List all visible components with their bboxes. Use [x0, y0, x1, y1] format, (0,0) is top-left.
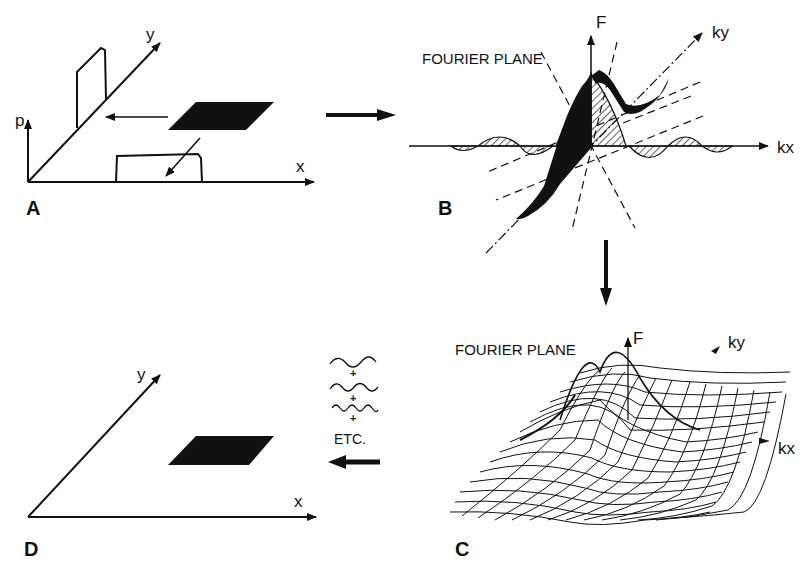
- x-axis-label-d: x: [294, 492, 303, 511]
- y-axis-label: y: [146, 25, 155, 44]
- plus-sign-2: +: [350, 392, 356, 404]
- panel-d: y x D: [24, 365, 316, 560]
- arrow-c-to-d: [328, 455, 380, 469]
- panel-label-a: A: [26, 197, 40, 219]
- kx-axis-label-c: kx: [778, 439, 796, 458]
- y-axis-d: [28, 375, 160, 517]
- panel-c: FOURIER PLANE F ky kx C: [450, 329, 796, 560]
- panel-label-c: C: [455, 538, 469, 560]
- ky-arrowhead-c: [711, 346, 720, 354]
- y-axis: [28, 43, 160, 182]
- wave-3-icon: [332, 405, 378, 412]
- reconstructed-object: [168, 436, 274, 465]
- wave-2-icon: [330, 384, 378, 392]
- fourier-plane-label-c: FOURIER PLANE: [455, 341, 576, 358]
- figure-canvas: p y x A FOURIER PLANE F: [0, 0, 806, 567]
- kx-arrowhead-c: [759, 438, 770, 444]
- kx-sidelobes-right: [629, 137, 732, 158]
- arrow-b-to-c: [600, 240, 612, 306]
- x-axis-label: x: [296, 157, 305, 176]
- panel-label-b: B: [438, 197, 452, 219]
- kx-sidelobes-left: [451, 137, 553, 155]
- ky-axis-label-c: ky: [728, 333, 746, 352]
- ky-axis-label-b: ky: [712, 23, 730, 42]
- plus-sign-3: +: [350, 412, 356, 424]
- kx-axis-label-b: kx: [777, 138, 795, 157]
- arrow-to-x-projection: [166, 138, 200, 176]
- etc-label: ETC.: [334, 431, 366, 447]
- fourier-surface-mesh: [450, 352, 790, 524]
- f-axis-label-b: F: [596, 13, 606, 32]
- wave-sum-legend: + + + ETC.: [330, 357, 378, 447]
- panel-a: p y x A: [15, 25, 314, 219]
- p-axis-label: p: [15, 111, 24, 130]
- y-axis-label-d: y: [137, 365, 146, 384]
- wave-1-icon: [330, 357, 376, 367]
- fourier-figure: p y x A FOURIER PLANE F: [0, 0, 806, 567]
- fourier-plane-label-b: FOURIER PLANE: [422, 50, 543, 67]
- f-axis-label-c: F: [633, 329, 643, 348]
- panel-label-d: D: [24, 538, 38, 560]
- object-rectangle: [168, 102, 274, 130]
- panel-b: FOURIER PLANE F ky kx B: [409, 13, 795, 253]
- arrow-a-to-b: [326, 109, 396, 121]
- plus-sign-1: +: [350, 367, 356, 379]
- x-projection-profile: [116, 154, 202, 182]
